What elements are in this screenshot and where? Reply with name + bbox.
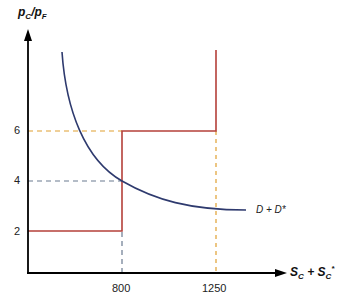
y-axis-title: pC/pF <box>18 5 47 21</box>
supply-step-line <box>28 50 216 231</box>
x-tick-1250: 1250 <box>202 282 226 294</box>
chart-canvas <box>0 0 342 305</box>
x-tick-800: 800 <box>112 282 130 294</box>
y-tick-2: 2 <box>14 225 20 237</box>
y-tick-4: 4 <box>14 174 20 186</box>
x-axis-title: SC + SC* <box>290 264 334 281</box>
y-tick-6: 6 <box>14 124 20 136</box>
x-axis-arrow-icon <box>275 269 287 277</box>
demand-curve-label: D + D* <box>256 204 286 215</box>
y-axis-arrow-icon <box>24 29 32 41</box>
